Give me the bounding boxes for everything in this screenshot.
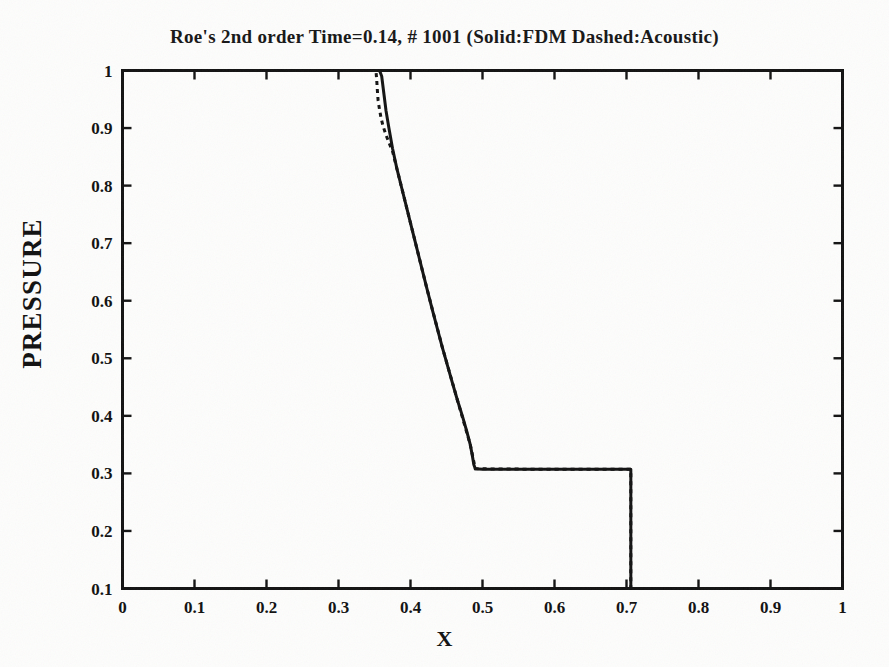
x-tick-label: 0.4 <box>400 598 422 617</box>
axis-tick-labels: 00.10.20.30.40.50.60.70.80.910.10.20.30.… <box>91 62 847 617</box>
y-tick-label: 0.5 <box>91 349 112 368</box>
plot-area: 00.10.20.30.40.50.60.70.80.910.10.20.30.… <box>0 0 889 667</box>
y-tick-label: 0.1 <box>91 580 112 599</box>
y-tick-label: 0.6 <box>91 292 112 311</box>
y-tick-label: 0.8 <box>91 177 112 196</box>
x-tick-label: 0 <box>118 598 127 617</box>
y-tick-label: 0.9 <box>91 119 112 138</box>
axis-frame <box>123 71 843 589</box>
y-tick-label: 1 <box>104 62 113 81</box>
series-fdm <box>123 71 843 589</box>
x-tick-label: 0.3 <box>328 598 349 617</box>
y-tick-label: 0.2 <box>91 522 112 541</box>
axis-ticks <box>123 71 843 589</box>
chart-page: Roe's 2nd order Time=0.14, # 1001 (Solid… <box>0 0 889 667</box>
x-tick-label: 0.7 <box>616 598 638 617</box>
x-tick-label: 0.5 <box>472 598 493 617</box>
y-tick-label: 0.3 <box>91 464 112 483</box>
series-acoustic <box>123 71 843 589</box>
x-tick-label: 1 <box>838 598 847 617</box>
y-tick-label: 0.7 <box>91 234 113 253</box>
x-tick-label: 0.2 <box>256 598 277 617</box>
x-tick-label: 0.1 <box>184 598 205 617</box>
x-tick-label: 0.9 <box>760 598 781 617</box>
x-tick-label: 0.6 <box>544 598 565 617</box>
data-series <box>123 71 843 589</box>
y-tick-label: 0.4 <box>91 407 113 426</box>
x-tick-label: 0.8 <box>688 598 709 617</box>
